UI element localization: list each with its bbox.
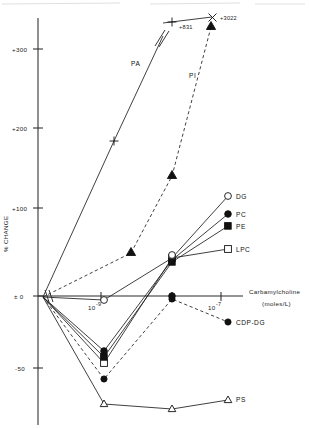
series-line-dg [43, 196, 228, 300]
marker-cdpdg-1 [101, 376, 107, 382]
marker-pc-3 [225, 211, 232, 218]
series-label-dg: DG [236, 193, 247, 200]
x-tick-label-2-exp: -7 [216, 301, 221, 307]
marker-pi-3 [206, 22, 215, 30]
series-label-pa: PA [131, 60, 140, 67]
series-label-ps: PS [236, 396, 246, 403]
series-label-pe: PE [236, 223, 246, 230]
marker-pa-1 [110, 137, 119, 146]
pa-break-slash-2 [159, 31, 169, 47]
y-tick-label-100: +100 [12, 205, 28, 212]
series-line-pe [43, 226, 228, 357]
series-label-pi: PI [189, 72, 196, 79]
pa-break-slash-1 [155, 30, 165, 46]
marker-pc-1 [101, 348, 108, 355]
marker-dg-3 [225, 193, 232, 200]
marker-pe-3 [225, 223, 232, 230]
series-label-lpc: LPC [236, 246, 250, 253]
y-tick-label-200: +200 [12, 125, 28, 132]
x-tick-label-2-base: 10 [208, 304, 216, 311]
marker-pc-2 [169, 293, 176, 300]
scan-artifact [2, 3, 305, 4]
marker-dg-1 [101, 297, 108, 304]
series-label-pc: PC [236, 211, 246, 218]
x-axis-title-units: (moles/L) [262, 300, 291, 307]
y-axis-title: % CHANGE [2, 216, 9, 253]
marker-pa-2 [168, 18, 177, 27]
x-tick-label-1-base: 10 [88, 304, 96, 311]
series-label-cdpdg: CDP-DG [236, 319, 265, 326]
y-tick-label-zero: ± 0 [14, 293, 24, 300]
x-tick-label-1-exp: -9 [96, 301, 101, 307]
series-line-pi [43, 27, 211, 297]
marker-ps-1 [100, 400, 108, 407]
y-tick-label-minus50: -50 [15, 365, 25, 372]
series-line-pc [43, 214, 228, 351]
y-tick-label-300: +300 [12, 46, 28, 53]
annotation-pa-3022: +3022 [220, 15, 237, 21]
marker-lpc-3 [225, 246, 232, 253]
series-line-pa-lower [43, 36, 163, 297]
marker-cdpdg-3 [225, 319, 231, 325]
marker-pi-2 [167, 171, 176, 179]
marker-dg-2 [169, 252, 176, 259]
x-axis-title: Carbamylcholine [249, 288, 301, 295]
marker-pi-1 [126, 248, 135, 256]
marker-ps-3 [224, 396, 232, 403]
lipid-response-chart: +300 +200 +100 ± 0 -50 % CHANGE 10 -9 10… [0, 0, 309, 428]
chart-container: +300 +200 +100 ± 0 -50 % CHANGE 10 -9 10… [0, 0, 309, 428]
annotation-pa-831: +831 [179, 24, 193, 30]
